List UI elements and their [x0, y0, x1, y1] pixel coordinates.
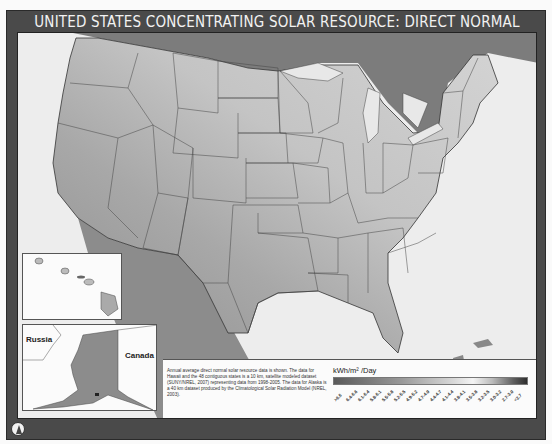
legend-ticks: >6.6 6.4-6.6 6.1-6.4 5.8-6.1 5.5-5.8 5.2… [333, 385, 533, 407]
legend-tick: 6.4-6.6 [345, 389, 358, 402]
north-arrow-icon [11, 422, 25, 436]
info-panel: Annual average direct normal solar resou… [163, 359, 537, 419]
legend-tick: 5.5-5.8 [381, 389, 394, 402]
hawaii-inset [22, 253, 122, 320]
legend-tick: 4.9-5.2 [405, 389, 418, 402]
legend-tick: 4.1-4.4 [441, 389, 454, 402]
legend-tick: 5.2-5.5 [393, 389, 406, 402]
legend: kWh/m² /Day >6.6 6.4-6.6 6.1-6.4 5.8-6.1… [333, 366, 533, 407]
legend-tick: 3.2-3.5 [477, 389, 490, 402]
legend-tick: 3.8-4.1 [453, 389, 466, 402]
legend-tick: <2.7 [513, 393, 523, 403]
legend-tick: 4.4-4.7 [429, 389, 442, 402]
legend-color-bar [333, 377, 528, 385]
bahamas [473, 339, 493, 348]
legend-tick: >6.6 [333, 393, 343, 403]
label-russia: Russia [26, 335, 52, 344]
map-frame: UNITED STATES CONCENTRATING SOLAR RESOUR… [6, 10, 546, 440]
data-notes: Annual average direct normal solar resou… [167, 368, 327, 398]
legend-tick: 6.1-6.4 [357, 389, 370, 402]
map-area: Russia Canada Annual average direct norm… [17, 32, 537, 419]
hawaii-map [23, 254, 122, 320]
legend-tick: 4.7-4.9 [417, 389, 430, 402]
label-canada: Canada [125, 351, 154, 360]
bottom-bar [7, 419, 547, 441]
legend-tick: 3.5-3.8 [465, 389, 478, 402]
legend-tick: 3.0-3.2 [489, 389, 502, 402]
legend-tick: 2.7-3.0 [501, 389, 514, 402]
alaska-inset: Russia Canada [22, 324, 157, 411]
legend-title: kWh/m² /Day [333, 366, 533, 375]
legend-tick: 5.8-6.1 [369, 389, 382, 402]
map-title: UNITED STATES CONCENTRATING SOLAR RESOUR… [7, 11, 547, 33]
